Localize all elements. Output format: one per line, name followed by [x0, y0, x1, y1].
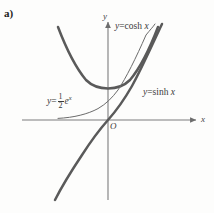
sinh-label-function: sinh [153, 87, 169, 97]
halfexp-label-equals: = [51, 96, 56, 106]
cosh-label-argument: x [144, 21, 148, 31]
y-axis-label: y [103, 12, 107, 21]
halfexp-denominator: 2 [58, 102, 64, 110]
curve-label-cosh: y=cosh x [115, 22, 149, 32]
cosh-label-function: cosh [125, 21, 142, 31]
origin-label: O [110, 122, 117, 131]
plot-canvas [0, 0, 214, 213]
halfexp-exponent: x [69, 94, 72, 101]
sinh-label-argument: x [171, 87, 175, 97]
curve-label-half-exp: y=12ex [47, 93, 72, 111]
hyperbolic-functions-figure: a) y x O y=cosh x y=sinh x y=12ex [0, 0, 214, 213]
x-axis-label: x [201, 115, 205, 124]
halfexp-fraction: 12 [58, 93, 64, 111]
part-label: a) [4, 8, 13, 19]
curve-label-sinh: y=sinh x [143, 88, 175, 98]
